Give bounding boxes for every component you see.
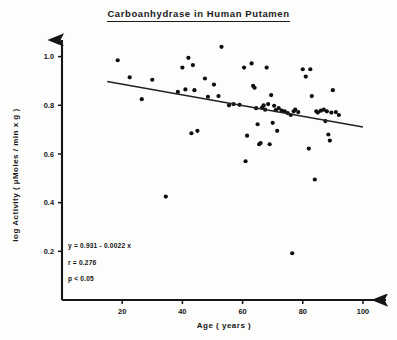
data-point — [310, 94, 314, 98]
data-point — [191, 63, 195, 67]
data-point — [183, 87, 187, 91]
data-point — [301, 67, 305, 71]
data-point — [334, 110, 338, 114]
data-point — [262, 103, 266, 107]
data-point — [337, 113, 341, 117]
data-point — [275, 129, 279, 133]
data-point — [212, 82, 216, 86]
x-axis-label: Age ( years ) — [197, 321, 252, 330]
data-point — [128, 75, 132, 79]
data-point — [307, 147, 311, 151]
data-point — [250, 61, 254, 65]
data-point — [268, 142, 272, 146]
data-point — [192, 88, 196, 92]
figure-container: Carboanhydrase in Human Putamen 0.20.40.… — [0, 0, 397, 340]
data-point — [195, 129, 199, 133]
y-axis-label: log Activity ( µMoles / min x g ) — [11, 108, 20, 241]
data-point — [304, 74, 308, 78]
data-point — [331, 88, 335, 92]
data-point — [326, 132, 330, 136]
y-tick-label: 0.6 — [44, 150, 54, 159]
x-tick-label: 60 — [238, 307, 246, 316]
scatter-plot-svg: 0.20.40.60.81.0 20406080100 Age ( years … — [0, 0, 397, 340]
data-point — [243, 159, 247, 163]
x-tick-label: 20 — [118, 307, 126, 316]
x-axis-ticks: 20406080100 — [118, 300, 369, 316]
data-point — [308, 67, 312, 71]
data-point — [189, 131, 193, 135]
data-point — [259, 141, 263, 145]
data-point — [325, 109, 329, 113]
y-tick-label: 1.0 — [44, 52, 54, 61]
data-point — [116, 58, 120, 62]
data-point — [313, 177, 317, 181]
data-point — [186, 56, 190, 60]
regression-line — [107, 81, 363, 127]
y-tick-label: 0.2 — [44, 247, 54, 256]
data-point — [272, 104, 276, 108]
data-point — [256, 122, 260, 126]
data-points-layer — [116, 45, 341, 256]
x-tick-label: 100 — [357, 307, 369, 316]
data-point — [219, 45, 223, 49]
data-point — [206, 95, 210, 99]
data-point — [242, 65, 246, 69]
data-point — [140, 97, 144, 101]
data-point — [328, 138, 332, 142]
annotation-pvalue: p < 0.05 — [68, 275, 94, 283]
data-point — [245, 134, 249, 138]
statistics-annotation: y = 0.931 - 0.0022 x r = 0.276 p < 0.05 — [68, 242, 131, 283]
x-tick-label: 40 — [178, 307, 186, 316]
data-point — [253, 86, 257, 90]
y-tick-label: 0.4 — [44, 198, 55, 207]
x-tick-label: 80 — [299, 307, 307, 316]
y-axis-ticks: 0.20.40.60.81.0 — [44, 52, 62, 256]
data-point — [290, 251, 294, 255]
annotation-correlation: r = 0.276 — [68, 259, 97, 266]
data-point — [329, 110, 333, 114]
data-point — [203, 76, 207, 80]
data-point — [216, 94, 220, 98]
data-point — [180, 65, 184, 69]
data-point — [150, 78, 154, 82]
data-point — [296, 110, 300, 114]
plot-axes — [62, 40, 386, 300]
data-point — [266, 102, 270, 106]
annotation-equation: y = 0.931 - 0.0022 x — [68, 242, 131, 250]
y-tick-label: 0.8 — [44, 101, 54, 110]
data-point — [265, 65, 269, 69]
data-point — [164, 194, 168, 198]
data-point — [269, 93, 273, 97]
data-point — [271, 121, 275, 125]
